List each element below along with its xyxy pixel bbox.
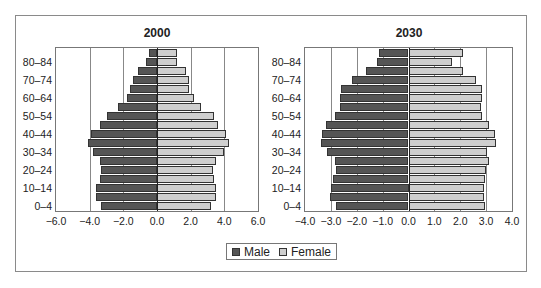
y-tick-label: 50–54 xyxy=(8,110,52,122)
bar-female xyxy=(157,67,186,75)
bar-female xyxy=(409,49,463,57)
bar-male xyxy=(118,103,157,111)
y-tick-label: 10–14 xyxy=(8,182,52,194)
y-tick-label: 60–64 xyxy=(8,92,52,104)
y-tick-label: 50–54 xyxy=(257,110,301,122)
bar-male xyxy=(331,184,409,192)
bar-male xyxy=(100,175,157,183)
y-tick-label: 80–84 xyxy=(257,56,301,68)
bar-female xyxy=(157,130,226,138)
x-tick-label: −2.0 xyxy=(106,215,140,227)
bar-male xyxy=(366,67,409,75)
y-tick-label: 10–14 xyxy=(257,182,301,194)
bar-male xyxy=(379,49,409,57)
bar-female xyxy=(157,76,189,84)
bar-male xyxy=(340,103,409,111)
bar-female xyxy=(409,139,497,147)
bar-female xyxy=(409,148,488,156)
bar-female xyxy=(409,175,485,183)
y-tick-label: 40–44 xyxy=(257,128,301,140)
bar-male xyxy=(333,175,408,183)
bar-male xyxy=(96,184,157,192)
bar-female xyxy=(409,94,483,102)
y-tick-label: 20–24 xyxy=(8,164,52,176)
bar-female xyxy=(409,121,489,129)
bar-male xyxy=(336,166,408,174)
plot-area-2000 xyxy=(55,47,259,212)
bar-male xyxy=(352,76,409,84)
bar-female xyxy=(157,121,218,129)
y-tick-label: 30–34 xyxy=(8,146,52,158)
chart-title-2000: 2000 xyxy=(117,26,197,40)
y-tick-label: 40–44 xyxy=(8,128,52,140)
y-tick-label: 70–74 xyxy=(257,74,301,86)
bar-male xyxy=(377,58,408,66)
bar-female xyxy=(157,103,201,111)
bar-male xyxy=(326,121,409,129)
bar-male xyxy=(321,139,409,147)
bar-male xyxy=(101,202,157,210)
legend: Male Female xyxy=(226,243,337,260)
bar-male xyxy=(100,157,157,165)
chart-title-2030: 2030 xyxy=(369,26,449,40)
bar-male xyxy=(330,193,409,201)
bar-male xyxy=(146,58,157,66)
zero-axis-line xyxy=(157,48,158,211)
x-tick-label: 4.0 xyxy=(207,215,241,227)
legend-item-female: Female xyxy=(279,245,331,259)
legend-label-male: Male xyxy=(244,245,270,259)
y-tick-label: 70–74 xyxy=(8,74,52,86)
y-tick-label: 0–4 xyxy=(8,200,52,212)
bar-male xyxy=(322,130,409,138)
bar-male xyxy=(335,112,409,120)
bar-female xyxy=(409,157,489,165)
bar-female xyxy=(157,193,216,201)
x-tick-label: −6.0 xyxy=(39,215,73,227)
bar-male xyxy=(100,121,157,129)
y-tick-label: 20–24 xyxy=(257,164,301,176)
bar-male xyxy=(107,112,158,120)
bar-female xyxy=(409,85,483,93)
male-swatch-icon xyxy=(232,248,240,256)
bar-female xyxy=(157,94,194,102)
bar-male xyxy=(93,148,157,156)
bar-male xyxy=(336,202,408,210)
bar-male xyxy=(101,166,157,174)
bar-male xyxy=(341,85,408,93)
x-tick-label: −4.0 xyxy=(73,215,107,227)
bar-male xyxy=(96,193,157,201)
plot-area-2030 xyxy=(304,47,513,212)
legend-label-female: Female xyxy=(291,245,331,259)
y-tick-label: 0–4 xyxy=(257,200,301,212)
y-tick-label: 30–34 xyxy=(257,146,301,158)
bar-male xyxy=(327,148,409,156)
bar-female xyxy=(157,157,216,165)
x-tick-label: 4.0 xyxy=(495,215,529,227)
bar-male xyxy=(340,94,409,102)
bar-female xyxy=(157,112,214,120)
bar-female xyxy=(409,166,487,174)
bar-female xyxy=(409,202,485,210)
bar-female xyxy=(409,184,484,192)
bar-female xyxy=(409,58,453,66)
bar-female xyxy=(157,58,177,66)
bar-male xyxy=(133,76,157,84)
y-tick-label: 80–84 xyxy=(8,56,52,68)
female-swatch-icon xyxy=(279,248,287,256)
y-tick-label: 60–64 xyxy=(257,92,301,104)
bar-female xyxy=(409,103,481,111)
bar-female xyxy=(157,175,214,183)
bar-female xyxy=(157,184,216,192)
bar-female xyxy=(157,49,177,57)
bar-male xyxy=(149,49,157,57)
bar-male xyxy=(127,94,157,102)
bar-female xyxy=(409,193,484,201)
bar-female xyxy=(157,166,213,174)
x-tick-label: 2.0 xyxy=(174,215,208,227)
legend-item-male: Male xyxy=(232,245,270,259)
zero-axis-line xyxy=(409,48,410,211)
bar-male xyxy=(335,157,409,165)
bar-male xyxy=(130,85,157,93)
bar-female xyxy=(409,130,496,138)
x-tick-label: 0.0 xyxy=(140,215,174,227)
